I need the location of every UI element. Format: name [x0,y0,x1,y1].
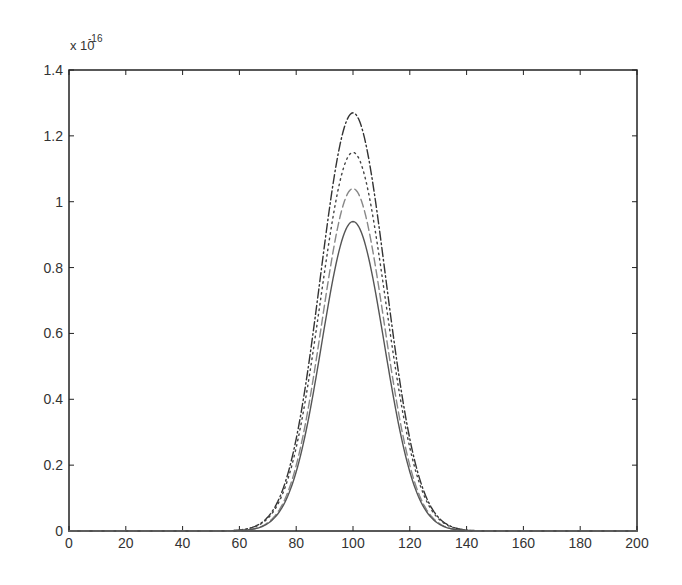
series-solid [69,221,637,531]
x-tick-label: 140 [455,535,479,551]
series-dash-dot [69,113,637,531]
y-tick-label: 0.2 [44,457,64,473]
data-series [69,113,637,531]
series-dashed [69,189,637,531]
y-tick-label: 0.8 [44,260,64,276]
x-tick-label: 60 [232,535,248,551]
x-tick-label: 180 [569,535,593,551]
y-tick-label: 1 [55,194,63,210]
plot-frame [69,70,637,531]
y-tick-label: 0.4 [44,391,64,407]
x-tick-label: 40 [175,535,191,551]
x-tick-label: 0 [65,535,73,551]
y-scale-exponent: -16 [88,33,103,44]
x-tick-label: 100 [341,535,365,551]
axes-frame: 02040608010012014016018020000.20.40.60.8… [44,62,649,551]
line-chart: 02040608010012014016018020000.20.40.60.8… [0,0,682,585]
y-tick-label: 1.4 [44,62,64,78]
y-tick-label: 0.6 [44,325,64,341]
x-tick-label: 20 [118,535,134,551]
y-tick-label: 0 [55,523,63,539]
x-tick-label: 80 [288,535,304,551]
series-dotted [69,152,637,531]
x-tick-label: 120 [398,535,422,551]
x-tick-label: 160 [512,535,536,551]
y-tick-label: 1.2 [44,128,64,144]
x-tick-label: 200 [625,535,649,551]
